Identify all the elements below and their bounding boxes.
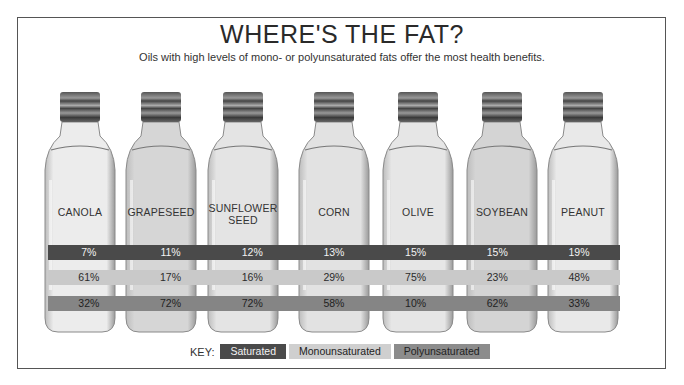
mono-value: 75%	[375, 270, 457, 285]
mono-value: 61%	[48, 270, 130, 285]
oil-label: GRAPESEED	[119, 206, 203, 218]
saturated-value: 15%	[375, 245, 457, 260]
mono-value: 23%	[456, 270, 538, 285]
chart-subtitle: Oils with high levels of mono- or polyun…	[0, 51, 684, 63]
poly-value: 32%	[48, 296, 130, 311]
mono-value: 29%	[293, 270, 375, 285]
poly-value: 33%	[538, 296, 620, 311]
mono-value: 48%	[538, 270, 620, 285]
oil-label: OLIVE	[376, 206, 460, 218]
poly-value: 58%	[293, 296, 375, 311]
saturated-value: 15%	[456, 245, 538, 260]
saturated-value: 7%	[48, 245, 130, 260]
saturated-value: 11%	[130, 245, 212, 260]
oil-label: SUNFLOWERSEED	[201, 202, 285, 226]
chart-title: WHERE'S THE FAT?	[0, 20, 684, 49]
poly-value: 72%	[211, 296, 293, 311]
oil-label: CORN	[292, 206, 376, 218]
legend-monounsaturated: Monounsaturated	[289, 344, 391, 359]
poly-value: 62%	[456, 296, 538, 311]
poly-value: 10%	[375, 296, 457, 311]
mono-value: 17%	[130, 270, 212, 285]
oil-label: PEANUT	[541, 206, 625, 218]
saturated-value: 12%	[211, 245, 293, 260]
oil-label: SOYBEAN	[460, 206, 544, 218]
monounsaturated-row: 61%17%16%29%75%23%48%	[48, 270, 620, 285]
poly-value: 72%	[130, 296, 212, 311]
legend-polyunsaturated: Polyunsaturated	[394, 344, 490, 359]
polyunsaturated-row: 32%72%72%58%10%62%33%	[48, 296, 620, 311]
legend-label: KEY:	[190, 346, 214, 358]
legend: KEY: Saturated Monounsaturated Polyunsat…	[190, 344, 493, 359]
saturated-row: 7%11%12%13%15%15%19%	[48, 245, 620, 260]
legend-saturated: Saturated	[220, 344, 286, 359]
saturated-value: 19%	[538, 245, 620, 260]
oil-label: CANOLA	[38, 206, 122, 218]
saturated-value: 13%	[293, 245, 375, 260]
mono-value: 16%	[211, 270, 293, 285]
